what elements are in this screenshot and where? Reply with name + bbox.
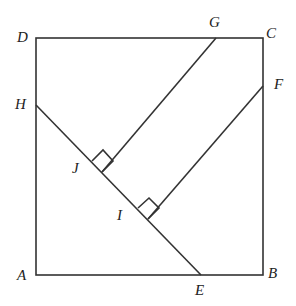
geometry-diagram: D C G F H J I A B E (0, 0, 296, 306)
segment-FI (148, 86, 263, 219)
right-angle-mark-J (92, 150, 113, 172)
label-H: H (14, 96, 27, 112)
label-D: D (16, 29, 28, 45)
label-C: C (266, 25, 277, 41)
segment-HE (36, 105, 201, 275)
label-G: G (209, 14, 220, 30)
label-I: I (116, 207, 123, 223)
label-F: F (273, 76, 284, 92)
square-ABCD (36, 38, 263, 275)
right-angle-mark-I (138, 198, 159, 219)
label-B: B (268, 265, 277, 281)
segment-GJ (102, 38, 216, 172)
label-A: A (16, 267, 27, 283)
label-E: E (194, 282, 204, 298)
label-J: J (72, 160, 80, 176)
